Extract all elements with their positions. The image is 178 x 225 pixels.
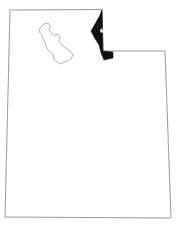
state-outline [5,10,171,219]
utah-map [0,0,178,225]
